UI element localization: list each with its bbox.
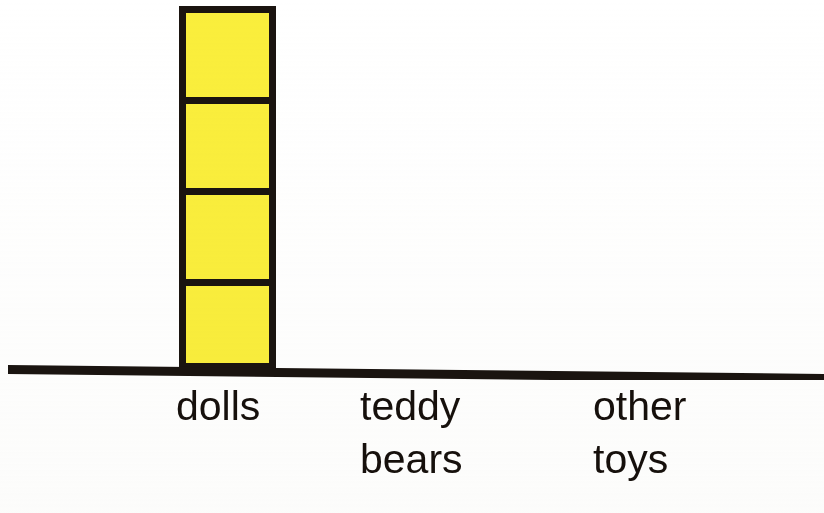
bar-unit-square — [179, 6, 276, 97]
bar-stack-dolls — [179, 6, 276, 370]
bar-unit-square — [179, 279, 276, 370]
category-label-teddy-bears: teddy bears — [360, 380, 560, 486]
bar-columns — [0, 0, 824, 370]
category-label-dolls: dolls — [176, 380, 376, 433]
category-labels: dolls teddy bears other toys — [0, 380, 824, 513]
bar-unit-square — [179, 188, 276, 279]
plot-area — [0, 0, 824, 380]
bar-chart: dolls teddy bears other toys — [0, 0, 824, 513]
bar-column-teddy-bears — [362, 0, 459, 370]
bar-column-dolls — [179, 0, 276, 370]
bar-unit-square — [179, 97, 276, 188]
bar-column-other-toys — [595, 0, 692, 370]
category-label-other-toys: other toys — [593, 380, 793, 486]
